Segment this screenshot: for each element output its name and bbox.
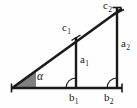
label-b1-base: b	[69, 91, 75, 103]
label-c2-sub: 2	[108, 5, 112, 14]
label-c1-sub: 1	[67, 27, 71, 36]
label-leg-a2: a2	[121, 38, 130, 49]
label-angle-alpha: α	[37, 71, 43, 83]
triangle-diagram: α c1 c2 a1 a2 b1 b2	[0, 0, 137, 108]
label-b2-sub: 2	[110, 97, 114, 106]
label-a1-sub: 1	[85, 59, 89, 68]
label-b2-base: b	[104, 91, 110, 103]
label-b1-sub: 1	[75, 97, 79, 106]
right-angle-arc-b2	[107, 78, 117, 88]
label-base-b2: b2	[104, 92, 113, 103]
label-hypotenuse-c1: c1	[62, 22, 71, 33]
label-base-b1: b1	[69, 92, 78, 103]
label-a2-sub: 2	[126, 43, 130, 52]
right-angle-arc-b1	[66, 78, 76, 88]
label-hypotenuse-c2: c2	[103, 0, 112, 11]
label-leg-a1: a1	[80, 54, 89, 65]
